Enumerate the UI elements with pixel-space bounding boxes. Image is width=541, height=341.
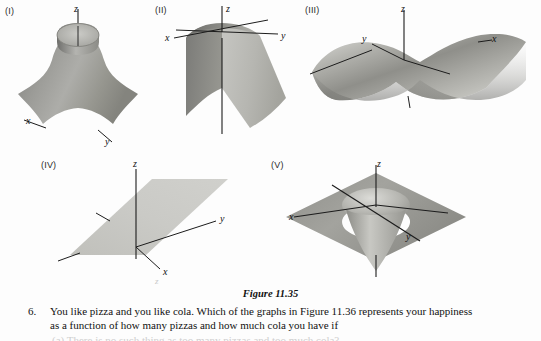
axis-label-z-IV: z	[133, 158, 137, 169]
arch-right-face-II	[222, 24, 286, 128]
figure-panel-III	[300, 2, 540, 127]
tilted-plane-surface	[40, 155, 250, 275]
textbook-page: (I)	[0, 0, 541, 341]
plane-quad-IV	[70, 179, 228, 255]
axis-label-x-III: x	[492, 33, 496, 44]
axis-label-x-IV: x	[163, 266, 167, 277]
problem-line-1: You like pizza and you like cola. Which …	[50, 305, 533, 319]
axis-label-y-I: y	[105, 136, 109, 147]
axis-z-negative-III	[408, 96, 410, 108]
axis-label-y-II: y	[281, 30, 285, 41]
axis-label-x-II: x	[165, 32, 169, 43]
figure-panel-IV	[40, 155, 250, 275]
cut-off-next-line: (a) There is no such thing as too many p…	[52, 334, 522, 341]
axis-label-x-I: x	[26, 115, 30, 126]
axis-label-z-V: z	[377, 158, 381, 169]
problem-number: 6.	[28, 305, 50, 317]
arch-left-face-II	[186, 24, 222, 116]
figure-caption: Figure 11.35	[0, 288, 541, 299]
axis-label-y-IV: y	[220, 213, 224, 224]
figure-panel-II	[160, 2, 310, 152]
axis-label-z-I: z	[74, 3, 78, 14]
problem-body: You like pizza and you like cola. Which …	[50, 305, 533, 332]
funnel-surface	[270, 155, 485, 280]
axis-label-y-V: y	[406, 231, 410, 242]
axis-label-y-III: y	[362, 33, 366, 44]
scan-artifact-glyph: z	[155, 276, 159, 286]
saddle-surface	[300, 2, 540, 127]
plane-edge-tick-lower-IV	[58, 253, 80, 261]
axis-label-x-V: x	[289, 211, 293, 222]
cone-bowl-surface	[2, 2, 157, 152]
problem-6: 6. You like pizza and you like cola. Whi…	[28, 305, 533, 332]
problem-line-2: as a function of how many pizzas and how…	[50, 319, 533, 333]
arch-ridge-surface	[160, 2, 310, 152]
plane-edge-tick-upper-IV	[96, 213, 110, 221]
axis-label-z-III: z	[401, 3, 405, 14]
figure-panel-I	[2, 2, 157, 152]
figure-panel-V	[270, 155, 485, 280]
axis-label-z-II: z	[226, 3, 230, 14]
